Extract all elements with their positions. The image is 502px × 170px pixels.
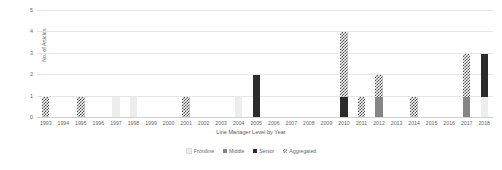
- x-tick-label: 2016: [443, 120, 455, 126]
- x-tick-label: 2002: [198, 120, 210, 126]
- x-tick-label: 2007: [286, 120, 298, 126]
- bar-segment-aggregated[interactable]: [182, 97, 189, 118]
- bar-column[interactable]: [481, 11, 488, 118]
- bar-column[interactable]: [130, 11, 137, 118]
- x-tick-label: 2009: [321, 120, 333, 126]
- bar-segment-middle[interactable]: [375, 97, 382, 118]
- x-tick-label: 1993: [40, 120, 52, 126]
- legend-swatch-icon: [283, 149, 287, 153]
- bar-column[interactable]: [147, 11, 154, 118]
- x-tick-label: 1999: [145, 120, 157, 126]
- x-tick-label: 2003: [215, 120, 227, 126]
- x-tick-label: 2014: [408, 120, 420, 126]
- legend-label: Aggregated: [289, 148, 316, 154]
- bar-segment-aggregated[interactable]: [77, 97, 84, 118]
- x-tick-label: 2004: [233, 120, 245, 126]
- x-tick-label: 2018: [478, 120, 490, 126]
- bar-column[interactable]: [305, 11, 312, 118]
- legend-swatch-icon: [186, 148, 192, 154]
- y-tick-label: 4: [30, 28, 33, 34]
- x-tick-label: 2005: [250, 120, 262, 126]
- bar-segment-aggregated[interactable]: [463, 54, 470, 97]
- x-tick-label: 1997: [110, 120, 122, 126]
- bar-segment-frontline[interactable]: [235, 97, 242, 118]
- x-tick-label: 2013: [391, 120, 403, 126]
- legend-swatch-icon: [253, 149, 257, 153]
- legend-label: Senior: [259, 148, 274, 154]
- bar-segment-aggregated[interactable]: [42, 97, 49, 118]
- bar-column[interactable]: [112, 11, 119, 118]
- bar-segment-senior[interactable]: [340, 97, 347, 118]
- x-axis-title: Line Manager Level by Year: [0, 129, 502, 135]
- bar-column[interactable]: [235, 11, 242, 118]
- bar-column[interactable]: [60, 11, 67, 118]
- bar-segment-senior[interactable]: [253, 75, 260, 118]
- bar-column[interactable]: [323, 11, 330, 118]
- bar-column[interactable]: [217, 11, 224, 118]
- bar-segment-middle[interactable]: [463, 97, 470, 118]
- x-tick-label: 2000: [163, 120, 175, 126]
- legend-label: Frontline: [194, 148, 214, 154]
- bars-layer: [37, 11, 493, 118]
- bar-column[interactable]: [42, 11, 49, 118]
- plot-area: 012345: [37, 11, 493, 118]
- chart-legend: FrontlineMiddleSeniorAggregated: [0, 148, 502, 154]
- bar-column[interactable]: [165, 11, 172, 118]
- bar-column[interactable]: [95, 11, 102, 118]
- bar-column[interactable]: [428, 11, 435, 118]
- x-tick-label: 2001: [180, 120, 192, 126]
- bar-column[interactable]: [77, 11, 84, 118]
- bar-column[interactable]: [288, 11, 295, 118]
- legend-label: Middle: [229, 148, 244, 154]
- bar-column[interactable]: [182, 11, 189, 118]
- y-tick-label: 3: [30, 50, 33, 56]
- legend-item-frontline[interactable]: Frontline: [186, 148, 214, 154]
- bar-column[interactable]: [270, 11, 277, 118]
- legend-item-senior[interactable]: Senior: [253, 148, 274, 154]
- bar-column[interactable]: [200, 11, 207, 118]
- bar-column[interactable]: [445, 11, 452, 118]
- x-tick-label: 1994: [58, 120, 70, 126]
- bar-chart: No. of Articles 012345 19931994199519961…: [0, 0, 502, 170]
- x-tick-label: 2012: [373, 120, 385, 126]
- legend-item-middle[interactable]: Middle: [223, 148, 244, 154]
- bar-segment-frontline[interactable]: [112, 97, 119, 118]
- bar-column[interactable]: [463, 11, 470, 118]
- bar-column[interactable]: [375, 11, 382, 118]
- legend-swatch-icon: [223, 149, 227, 153]
- x-tick-label: 1995: [75, 120, 87, 126]
- bar-segment-aggregated[interactable]: [358, 97, 365, 118]
- x-tick-label: 2015: [426, 120, 438, 126]
- bar-segment-frontline[interactable]: [130, 97, 137, 118]
- bar-column[interactable]: [358, 11, 365, 118]
- bar-column[interactable]: [340, 11, 347, 118]
- bar-segment-senior[interactable]: [481, 54, 488, 97]
- y-tick-label: 0: [30, 114, 33, 120]
- bar-segment-aggregated[interactable]: [375, 75, 382, 96]
- x-tick-label: 1998: [128, 120, 140, 126]
- x-tick-label: 2017: [461, 120, 473, 126]
- bar-segment-frontline[interactable]: [481, 97, 488, 118]
- bar-segment-aggregated[interactable]: [340, 32, 347, 96]
- bar-column[interactable]: [410, 11, 417, 118]
- y-tick-label: 5: [30, 7, 33, 13]
- y-tick-label: 1: [30, 93, 33, 99]
- x-tick-label: 2008: [303, 120, 315, 126]
- x-axis-line: [37, 117, 493, 118]
- bar-segment-aggregated[interactable]: [410, 97, 417, 118]
- bar-column[interactable]: [253, 11, 260, 118]
- x-tick-label: 2006: [268, 120, 280, 126]
- bar-column[interactable]: [393, 11, 400, 118]
- x-tick-label: 2011: [356, 120, 367, 126]
- x-tick-label: 2010: [338, 120, 350, 126]
- legend-item-aggregated[interactable]: Aggregated: [283, 148, 316, 154]
- x-tick-label: 1996: [93, 120, 105, 126]
- y-tick-label: 2: [30, 71, 33, 77]
